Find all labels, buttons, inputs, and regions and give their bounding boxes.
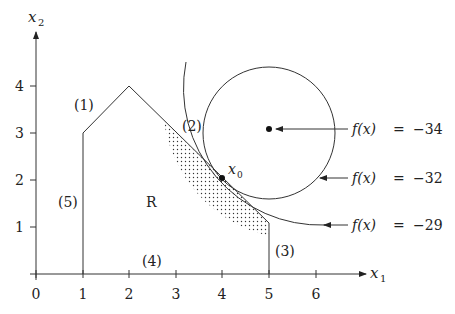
y-tick-labels: 1 2 3 4: [15, 78, 24, 235]
contour-label-29: f(x) = −29: [351, 217, 443, 233]
svg-text:6: 6: [312, 286, 321, 302]
svg-text:4: 4: [15, 78, 24, 94]
y-axis: x 2: [28, 8, 44, 280]
y-ticks: [30, 86, 36, 227]
x-tick-labels: 0 1 2 3 4 5 6: [32, 286, 321, 302]
svg-text:2: 2: [125, 286, 134, 302]
point-x0: [219, 175, 225, 181]
svg-text:−29: −29: [413, 217, 443, 233]
svg-text:1: 1: [380, 273, 386, 284]
svg-text:3: 3: [172, 286, 181, 302]
svg-text:−32: −32: [413, 170, 443, 186]
svg-text:3: 3: [15, 125, 24, 141]
constraint-label-1: (1): [74, 97, 94, 113]
feasible-region-boundary: [83, 86, 269, 274]
constraint-label-5: (5): [58, 194, 78, 210]
svg-text:f(x): f(x): [351, 121, 376, 137]
optimization-diagram: x 1 x 2 0 1 2 3 4 5 6 1 2 3 4: [0, 0, 455, 314]
constraint-label-4: (4): [142, 253, 162, 269]
svg-text:2: 2: [15, 172, 24, 188]
svg-text:=: =: [393, 121, 405, 137]
svg-text:f(x): f(x): [351, 170, 376, 186]
svg-text:=: =: [393, 217, 405, 233]
svg-text:2: 2: [38, 17, 44, 28]
svg-text:x: x: [370, 264, 379, 282]
svg-text:0: 0: [32, 286, 41, 302]
svg-text:−34: −34: [413, 121, 443, 137]
svg-text:1: 1: [15, 219, 24, 235]
svg-text:x: x: [228, 161, 236, 177]
contour-label-34: f(x) = −34: [351, 121, 443, 137]
svg-text:x: x: [28, 8, 37, 26]
constraint-label-2: (2): [182, 118, 202, 134]
svg-text:0: 0: [237, 170, 243, 180]
feasible-improvement-region: [164, 121, 269, 236]
contour-label-32: f(x) = −32: [351, 170, 443, 186]
point-x0-label: x 0: [228, 161, 243, 180]
optimum-point-center: [266, 126, 272, 132]
region-label: R: [146, 194, 157, 210]
svg-text:f(x): f(x): [351, 217, 376, 233]
svg-text:4: 4: [218, 286, 227, 302]
svg-text:=: =: [393, 170, 405, 186]
svg-text:1: 1: [79, 286, 88, 302]
svg-text:5: 5: [265, 286, 274, 302]
constraint-label-3: (3): [275, 243, 295, 259]
